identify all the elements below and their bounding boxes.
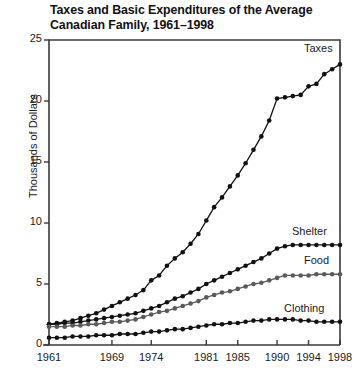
data-point xyxy=(141,315,146,320)
data-point xyxy=(110,304,115,309)
data-point xyxy=(188,301,193,306)
data-point xyxy=(220,195,225,200)
data-point xyxy=(283,273,288,278)
data-point xyxy=(330,67,335,72)
data-point xyxy=(204,295,209,300)
data-point xyxy=(180,294,185,299)
data-point xyxy=(102,307,107,312)
data-point xyxy=(275,96,280,101)
data-point xyxy=(298,93,303,98)
data-point xyxy=(212,205,217,210)
data-point xyxy=(322,272,327,277)
data-point xyxy=(125,312,130,317)
data-point xyxy=(157,304,162,309)
data-point xyxy=(102,333,107,338)
plot-frame xyxy=(49,40,340,345)
data-point xyxy=(188,326,193,331)
data-point xyxy=(220,322,225,327)
data-point xyxy=(220,274,225,279)
data-point xyxy=(196,299,201,304)
data-point xyxy=(173,296,178,301)
data-point xyxy=(125,318,130,323)
data-point xyxy=(330,272,335,277)
data-point xyxy=(102,316,107,321)
data-point xyxy=(259,318,264,323)
data-point xyxy=(55,335,60,340)
data-point xyxy=(188,241,193,246)
data-point xyxy=(322,320,327,325)
data-point xyxy=(117,313,122,318)
data-point xyxy=(267,317,272,322)
data-point xyxy=(165,263,170,268)
data-point xyxy=(78,334,83,339)
data-point xyxy=(243,320,248,325)
data-point xyxy=(133,332,138,337)
data-point xyxy=(243,161,248,166)
data-point xyxy=(149,329,154,334)
data-point xyxy=(243,284,248,289)
data-point xyxy=(149,278,154,283)
data-point xyxy=(125,296,130,301)
data-point xyxy=(291,273,296,278)
data-point xyxy=(228,289,233,294)
data-point xyxy=(55,324,60,329)
data-point xyxy=(188,290,193,295)
data-point xyxy=(298,243,303,248)
data-point xyxy=(165,328,170,333)
data-point xyxy=(283,95,288,100)
data-point xyxy=(94,311,99,316)
data-point xyxy=(173,256,178,261)
data-point xyxy=(212,322,217,327)
data-point xyxy=(338,320,343,325)
data-point xyxy=(267,278,272,283)
data-point xyxy=(298,273,303,278)
data-point xyxy=(141,309,146,314)
data-point xyxy=(228,271,233,276)
data-point xyxy=(228,321,233,326)
data-point xyxy=(86,334,91,339)
data-point xyxy=(149,306,154,311)
data-point xyxy=(196,232,201,237)
data-point xyxy=(196,287,201,292)
data-point xyxy=(165,300,170,305)
data-point xyxy=(70,323,75,328)
data-point xyxy=(228,184,233,189)
data-point xyxy=(291,94,296,99)
data-point xyxy=(251,318,256,323)
plot-area xyxy=(0,0,358,380)
data-point xyxy=(338,243,343,248)
series-line xyxy=(49,274,340,326)
data-point xyxy=(47,335,52,340)
data-point xyxy=(251,148,256,153)
data-point xyxy=(298,318,303,323)
data-point xyxy=(212,293,217,298)
data-point xyxy=(180,250,185,255)
data-point xyxy=(86,322,91,327)
data-point xyxy=(314,320,319,325)
data-point xyxy=(204,323,209,328)
data-point xyxy=(165,309,170,314)
data-point xyxy=(291,243,296,248)
data-point xyxy=(110,320,115,325)
data-point xyxy=(196,324,201,329)
data-point xyxy=(212,278,217,283)
data-point xyxy=(173,327,178,332)
data-point xyxy=(275,246,280,251)
data-point xyxy=(283,244,288,249)
data-point xyxy=(283,317,288,322)
series-shelter xyxy=(47,243,343,327)
data-point xyxy=(141,331,146,336)
data-point xyxy=(291,317,296,322)
data-point xyxy=(267,251,272,256)
data-point xyxy=(173,306,178,311)
data-point xyxy=(110,315,115,320)
data-point xyxy=(314,82,319,87)
data-point xyxy=(157,310,162,315)
data-point xyxy=(149,312,154,317)
data-point xyxy=(133,311,138,316)
data-point xyxy=(204,218,209,223)
data-point xyxy=(204,282,209,287)
series-line xyxy=(49,319,340,337)
data-point xyxy=(70,334,75,339)
data-point xyxy=(235,287,240,292)
